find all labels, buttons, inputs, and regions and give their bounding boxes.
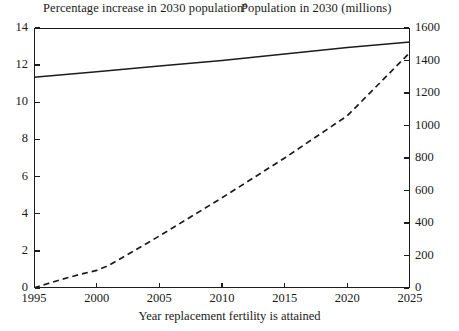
series-line-0 [34, 42, 410, 77]
x-tick [159, 283, 160, 288]
chart-header: Percentage increase in 2030 populationa … [0, 1, 459, 21]
y-tick-label-right: 1600 [415, 20, 455, 35]
y-tick-left [35, 250, 40, 251]
y-tick-right [404, 222, 409, 223]
y-tick-right [404, 92, 409, 93]
right-axis-title: Population in 2030 (millions) [241, 1, 391, 16]
y-tick-right [404, 125, 409, 126]
y-tick-label-right: 1000 [415, 118, 455, 133]
left-axis-title: Percentage increase in 2030 populationa [43, 1, 247, 16]
y-tick-label-right: 1200 [415, 85, 455, 100]
y-tick-left [35, 139, 40, 140]
y-tick-label-right: 400 [415, 215, 455, 230]
x-tick-label: 2015 [255, 291, 315, 306]
y-tick-left [35, 102, 40, 103]
x-tick-label: 2000 [67, 291, 127, 306]
x-tick-label: 1995 [4, 291, 64, 306]
y-tick-right [404, 27, 409, 28]
x-tick [284, 283, 285, 288]
x-tick [221, 283, 222, 288]
x-tick-label: 2025 [380, 291, 440, 306]
y-tick-label-right: 200 [415, 248, 455, 263]
y-tick-label-right: 1400 [415, 53, 455, 68]
chart-figure: Percentage increase in 2030 populationa … [0, 0, 459, 331]
y-tick-label-right: 800 [415, 150, 455, 165]
y-tick-label-left: 12 [0, 57, 28, 72]
series-line-1 [34, 52, 410, 288]
y-tick-right [404, 255, 409, 256]
x-tick [347, 283, 348, 288]
y-tick-left [35, 27, 40, 28]
y-tick-label-left: 4 [0, 206, 28, 221]
x-tick [96, 283, 97, 288]
y-tick-label-left: 10 [0, 94, 28, 109]
y-tick-right [404, 60, 409, 61]
y-tick-left [35, 176, 40, 177]
y-tick-right [404, 157, 409, 158]
x-tick-label: 2010 [192, 291, 252, 306]
y-tick-right [404, 190, 409, 191]
y-tick-left [35, 64, 40, 65]
y-tick-label-left: 8 [0, 131, 28, 146]
x-tick-label: 2005 [129, 291, 189, 306]
y-tick-label-left: 14 [0, 20, 28, 35]
y-tick-label-left: 2 [0, 243, 28, 258]
y-tick-left [35, 213, 40, 214]
y-tick-right [404, 287, 409, 288]
y-tick-left [35, 287, 40, 288]
x-axis-title: Year replacement fertility is attained [0, 309, 459, 324]
y-tick-label-right: 600 [415, 183, 455, 198]
y-tick-label-left: 6 [0, 169, 28, 184]
left-axis-title-text: Percentage increase in 2030 population [43, 1, 243, 15]
x-tick-label: 2020 [317, 291, 377, 306]
plot-area [34, 28, 410, 288]
